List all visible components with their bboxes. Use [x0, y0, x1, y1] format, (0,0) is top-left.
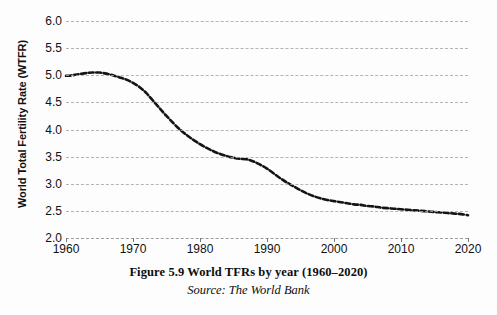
y-axis-tick-labels: 6.05.55.04.54.03.53.02.52.0: [36, 0, 62, 262]
y-tick-label: 4.5: [45, 95, 62, 109]
gridline: [66, 211, 468, 212]
y-tick-label: 2.5: [45, 204, 62, 218]
x-tick-label: 2020: [455, 242, 482, 256]
x-tick-label: 1980: [187, 242, 214, 256]
y-tick-label: 6.0: [45, 14, 62, 28]
figure-caption: Figure 5.9 World TFRs by year (1960–2020…: [0, 264, 497, 281]
y-tick-label: 5.0: [45, 68, 62, 82]
x-tick-label: 2010: [388, 242, 415, 256]
gridline: [66, 21, 468, 22]
x-tick-label: 2000: [321, 242, 348, 256]
x-tick-label: 1960: [53, 242, 80, 256]
gridline: [66, 184, 468, 185]
y-tick-label: 4.0: [45, 123, 62, 137]
figure-source: Source: The World Bank: [0, 281, 497, 300]
y-tick-label: 5.5: [45, 41, 62, 55]
y-tick-label: 3.5: [45, 150, 62, 164]
caption-block: Figure 5.9 World TFRs by year (1960–2020…: [0, 264, 497, 300]
gridline: [66, 157, 468, 158]
x-axis-tick-labels: 1960197019801990200020102020: [66, 238, 468, 262]
gridline: [66, 48, 468, 49]
chart-area: World Total Fertility Rate (WTFR) 6.05.5…: [0, 0, 497, 262]
x-tick-label: 1970: [120, 242, 147, 256]
line-series-world-tfr: [66, 72, 468, 215]
plot-area: [66, 21, 468, 238]
gridline: [66, 75, 468, 76]
figure-container: World Total Fertility Rate (WTFR) 6.05.5…: [0, 0, 497, 315]
gridline: [66, 102, 468, 103]
gridline: [66, 130, 468, 131]
x-tick-label: 1990: [254, 242, 281, 256]
y-axis-title: World Total Fertility Rate (WTFR): [16, 14, 28, 234]
y-tick-label: 3.0: [45, 177, 62, 191]
